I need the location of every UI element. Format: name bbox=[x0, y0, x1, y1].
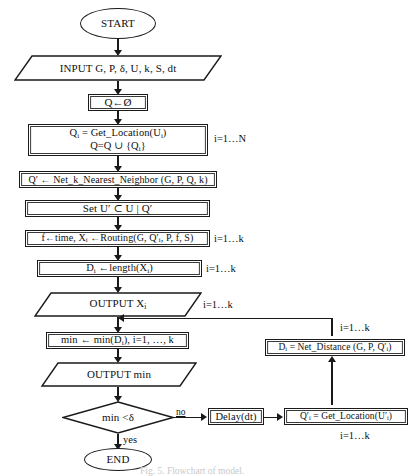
node-set-u-label: Set U′ ⊂ U | Q′ bbox=[83, 202, 152, 214]
arrowhead-net-distance bbox=[328, 356, 336, 362]
node-net-distance-label: Di = Net_Distance (G, P, Q′i) bbox=[278, 342, 391, 353]
node-min-calc: min ← min(Di), i=1, …, k bbox=[46, 332, 189, 349]
get-location-line-2: Q=Q ∪ {Qi} bbox=[90, 140, 146, 151]
annotation-i-1-N: i=1…N bbox=[214, 134, 246, 145]
node-knn: Q′ ← Net_k_Nearest_Neighbor (G, P, Q, k) bbox=[19, 171, 217, 188]
node-output-min-label: OUTPUT min bbox=[87, 368, 151, 380]
node-output-x-label: OUTPUT Xi bbox=[90, 297, 147, 311]
node-set-u: Set U′ ⊂ U | Q′ bbox=[25, 200, 210, 217]
node-start: START bbox=[80, 8, 156, 39]
node-init-q: Q←Ø bbox=[88, 94, 148, 111]
annotation-i-1-k-getloc2: i=1…k bbox=[340, 431, 370, 442]
node-length-label: Di ←length(Xi) bbox=[86, 262, 153, 275]
node-get-location-label: Qi = Get_Location(Ui) Q=Q ∪ {Qi} bbox=[70, 127, 167, 152]
loop-vertical-lower bbox=[331, 362, 333, 405]
loop-horizontal-return bbox=[124, 318, 332, 320]
loop-vertical-upper bbox=[331, 318, 333, 336]
get-location-line-1: Qi = Get_Location(Ui) bbox=[70, 127, 167, 138]
annotation-i-1-k-netdist: i=1…k bbox=[340, 323, 370, 334]
node-get-location: Qi = Get_Location(Ui) Q=Q ∪ {Qi} bbox=[28, 124, 208, 156]
node-knn-label: Q′ ← Net_k_Nearest_Neighbor (G, P, Q, k) bbox=[28, 174, 207, 185]
node-net-distance: Di = Net_Distance (G, P, Q′i) bbox=[265, 339, 405, 356]
node-length: Di ←length(Xi) bbox=[37, 260, 202, 277]
node-decision-label: min <δ bbox=[102, 411, 134, 423]
branch-label-yes: yes bbox=[123, 435, 137, 446]
node-routing-label: f←time, Xi ←Routing(G, Q′i, P, f, S) bbox=[42, 232, 194, 244]
arrowhead-delay bbox=[201, 413, 207, 421]
annotation-i-1-k-output: i=1…k bbox=[203, 300, 233, 311]
annotation-i-1-k-length: i=1…k bbox=[206, 264, 236, 275]
node-start-label: START bbox=[101, 17, 135, 29]
node-input-label: INPUT G, P, δ, U, k, S, dt bbox=[60, 62, 177, 74]
node-init-q-label: Q←Ø bbox=[104, 96, 131, 108]
arrowhead-getloc2 bbox=[277, 413, 283, 421]
branch-label-no: no bbox=[176, 408, 186, 418]
figure-caption: Fig. 5. Flowchart of model. bbox=[140, 466, 244, 476]
node-end-label: END bbox=[107, 453, 130, 465]
node-output-min: OUTPUT min bbox=[41, 362, 197, 387]
node-min-calc-label: min ← min(Di), i=1, …, k bbox=[61, 334, 174, 347]
node-input: INPUT G, P, δ, U, k, S, dt bbox=[14, 55, 222, 81]
node-routing: f←time, Xi ←Routing(G, Q′i, P, f, S) bbox=[25, 230, 210, 247]
node-get-location-2: Q′i = Get_Location(U′i) bbox=[284, 408, 408, 425]
arrowhead-loop-return bbox=[118, 314, 124, 322]
node-delay-label: Delay(dt) bbox=[215, 411, 256, 423]
annotation-i-1-k-routing: i=1…k bbox=[214, 234, 244, 245]
node-get-location-2-label: Q′i = Get_Location(U′i) bbox=[300, 411, 392, 422]
node-delay: Delay(dt) bbox=[208, 408, 264, 425]
node-decision: min <δ bbox=[62, 401, 174, 434]
